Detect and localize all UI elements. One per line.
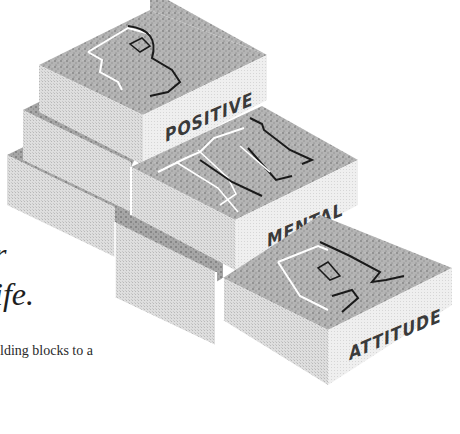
book-page: POSITIVE MENTAL <box>0 0 460 434</box>
body-text-fragment: lding blocks to a <box>0 343 93 359</box>
heading-fragment-line1: r <box>0 236 6 273</box>
heading-fragment-line2: ife. <box>0 276 34 313</box>
pma-blocks-illustration: POSITIVE MENTAL <box>0 0 460 434</box>
